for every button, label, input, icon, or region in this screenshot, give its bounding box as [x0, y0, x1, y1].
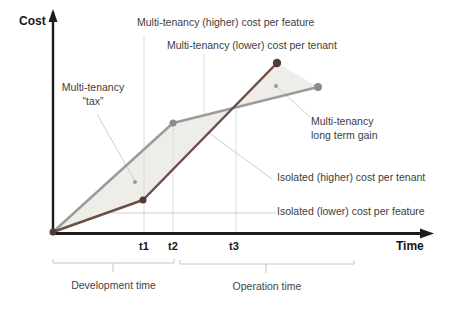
annotation-mt-gain-line2: long term gain	[311, 129, 378, 143]
phase-development-time: Development time	[53, 279, 174, 291]
series-marker-1	[140, 197, 147, 204]
annotation-mt-lower: Multi-tenancy (lower) cost per tenant	[167, 39, 337, 53]
y-axis-arrowhead-icon	[49, 9, 58, 22]
development-time-brace	[53, 259, 174, 263]
x-axis-title: Time	[396, 239, 424, 253]
annotation-mt-gain-line1: Multi-tenancy	[311, 115, 378, 129]
tick-t2: t2	[163, 240, 183, 252]
annotation-dot	[274, 84, 278, 88]
series-marker-0	[170, 120, 177, 127]
annotation-mt-higher: Multi-tenancy (higher) cost per feature	[137, 16, 314, 30]
annotation-mt-tax: Multi-tenancy “tax”	[50, 81, 136, 109]
series-marker-1	[273, 59, 281, 67]
series-marker-1	[50, 229, 57, 236]
tick-t1: t1	[134, 240, 154, 252]
x-axis-arrowhead-icon	[420, 229, 434, 239]
annotation-mt-tax-line1: Multi-tenancy	[50, 81, 136, 95]
phase-braces	[53, 259, 354, 273]
annotation-iso-lower: Isolated (lower) cost per feature	[277, 205, 425, 219]
cost-time-diagram: Cost Time t1 t2 t3 Multi-tenancy (higher…	[0, 0, 468, 313]
iso-higher-leader-line	[209, 133, 272, 179]
mt-tax-leader-line	[97, 114, 135, 181]
annotation-dot	[133, 180, 137, 184]
series-marker-0	[314, 83, 322, 91]
annotation-mt-tax-line2: “tax”	[50, 95, 136, 109]
annotation-mt-gain: Multi-tenancy long term gain	[311, 115, 378, 143]
tick-t3: t3	[224, 240, 244, 252]
phase-operation-time: Operation time	[180, 280, 354, 292]
operation-time-brace	[180, 260, 354, 264]
annotation-iso-higher: Isolated (higher) cost per tenant	[277, 171, 425, 185]
y-axis-title: Cost	[19, 14, 46, 28]
